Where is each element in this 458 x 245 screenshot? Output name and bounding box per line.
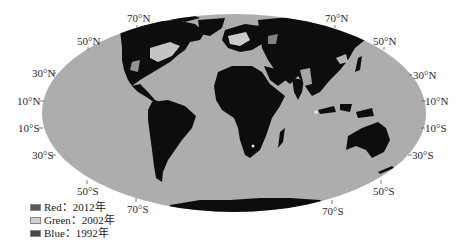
- lat-label-left-50s: 50°S: [77, 186, 99, 197]
- legend-label-blue: Blue：1992年: [44, 227, 109, 240]
- legend-label-red: Red：2012年: [44, 201, 106, 214]
- lat-label-right-10n: 10°N: [425, 96, 448, 107]
- legend-swatch-blue: [30, 230, 41, 237]
- lat-label-left-30s: 30°S: [32, 150, 54, 161]
- lat-label-left-70n: 70°N: [127, 13, 150, 24]
- lat-label-right-30s: 30°S: [412, 150, 434, 161]
- lat-label-left-70s: 70°S: [127, 204, 149, 215]
- lat-label-left-10s: 10°S: [18, 123, 40, 134]
- legend-label-green: Green：2002年: [44, 214, 115, 227]
- lat-label-right-50s: 50°S: [373, 186, 395, 197]
- legend-swatch-green: [30, 217, 41, 224]
- legend-item-red: Red：2012年: [30, 201, 115, 214]
- lat-label-left-10n: 10°N: [17, 96, 40, 107]
- legend-item-blue: Blue：1992年: [30, 227, 115, 240]
- lat-label-left-30n: 30°N: [32, 68, 55, 79]
- legend-swatch-red: [30, 204, 41, 211]
- lat-label-right-10s: 10°S: [425, 123, 447, 134]
- lat-label-right-70s: 70°S: [322, 206, 344, 217]
- lat-label-right-70n: 70°N: [325, 13, 348, 24]
- antarctica: [170, 198, 330, 220]
- lat-label-left-50n: 50°N: [77, 36, 100, 47]
- lat-label-right-30n: 30°N: [413, 70, 436, 81]
- legend-item-green: Green：2002年: [30, 214, 115, 227]
- lat-label-right-50n: 50°N: [373, 36, 396, 47]
- legend: Red：2012年 Green：2002年 Blue：1992年: [30, 201, 115, 240]
